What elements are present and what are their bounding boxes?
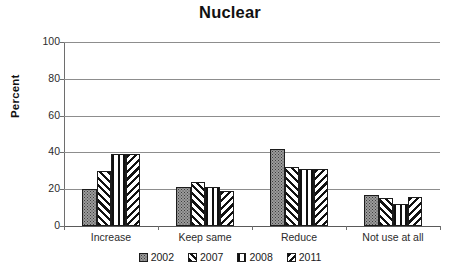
x-tick-mark-0 <box>64 226 65 230</box>
x-tick-mark-2 <box>252 226 253 230</box>
legend-item-2011[interactable]: 2011 <box>287 252 322 263</box>
legend-swatch-2011 <box>287 253 296 262</box>
y-tick-label-80: 80 <box>30 73 60 84</box>
bar-2007-increase <box>97 171 112 226</box>
x-category-label-increase: Increase <box>64 231 158 243</box>
x-category-label-not-use-at-all: Not use at all <box>346 231 440 243</box>
y-tick-label-0: 0 <box>30 220 60 231</box>
y-axis-label: Percent <box>9 38 21 118</box>
legend-item-2008[interactable]: 2008 <box>237 252 272 263</box>
y-tick-label-60: 60 <box>30 110 60 121</box>
x-tick-mark-1 <box>158 226 159 230</box>
y-tick-label-100: 100 <box>30 36 60 47</box>
bar-2002-increase <box>82 189 97 226</box>
bar-2007-keep-same <box>191 182 206 226</box>
legend-label-2008: 2008 <box>249 252 272 263</box>
x-category-label-keep-same: Keep same <box>158 231 252 243</box>
bar-2007-not-use-at-all <box>379 198 394 226</box>
legend-swatch-2007 <box>188 253 197 262</box>
legend-swatch-2002 <box>139 253 148 262</box>
x-tick-mark-end <box>440 226 441 230</box>
bar-2002-keep-same <box>176 187 191 226</box>
bar-2008-increase <box>111 154 126 226</box>
gridline-100 <box>64 42 440 43</box>
legend-label-2011: 2011 <box>299 252 322 263</box>
bar-2002-not-use-at-all <box>364 195 379 226</box>
nuclear-bar-chart: Nuclear Percent 020406080100 IncreaseKee… <box>0 0 460 274</box>
bar-2007-reduce <box>285 167 300 226</box>
bar-2011-not-use-at-all <box>408 197 423 226</box>
plot-area <box>64 42 440 226</box>
bar-2011-increase <box>126 154 141 226</box>
gridline-40 <box>64 152 440 153</box>
legend-swatch-2008 <box>237 253 246 262</box>
gridline-80 <box>64 79 440 80</box>
bar-2002-reduce <box>270 149 285 226</box>
chart-legend: 2002200720082011 <box>0 252 460 263</box>
x-category-label-reduce: Reduce <box>252 231 346 243</box>
bar-2008-not-use-at-all <box>393 204 408 226</box>
y-tick-label-20: 20 <box>30 183 60 194</box>
y-tick-label-40: 40 <box>30 146 60 157</box>
bar-2008-keep-same <box>205 187 220 226</box>
bar-2008-reduce <box>299 169 314 226</box>
x-tick-mark-3 <box>346 226 347 230</box>
legend-item-2002[interactable]: 2002 <box>139 252 174 263</box>
legend-label-2002: 2002 <box>151 252 174 263</box>
legend-label-2007: 2007 <box>200 252 223 263</box>
chart-title: Nuclear <box>0 3 460 22</box>
legend-item-2007[interactable]: 2007 <box>188 252 223 263</box>
gridline-60 <box>64 116 440 117</box>
bar-2011-keep-same <box>220 191 235 226</box>
bar-2011-reduce <box>314 169 329 226</box>
